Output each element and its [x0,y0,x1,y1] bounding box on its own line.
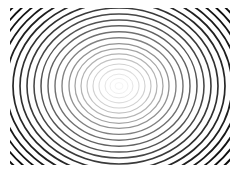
concentric-rings-figure: Concentric Ring Pattern [0,0,240,173]
figure-surface: Concentric Ring Pattern [0,0,240,173]
screenshot-root: Concentric Ring Pattern [0,0,240,173]
